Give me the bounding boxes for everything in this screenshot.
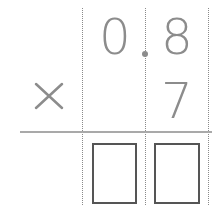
product-rule [20,131,212,133]
multiplier-tenths-digit: 7 [152,76,202,126]
column-divider-middle [145,8,146,205]
decimal-point [142,51,148,57]
column-divider-right [208,8,209,205]
multiply-icon [34,82,64,110]
answer-box-ones[interactable] [92,143,137,204]
multiplicand-tenths-digit: 8 [152,12,202,62]
multiplicand-ones-digit: 0 [90,12,140,62]
column-divider-left [82,8,83,205]
answer-box-tenths[interactable] [154,143,200,204]
